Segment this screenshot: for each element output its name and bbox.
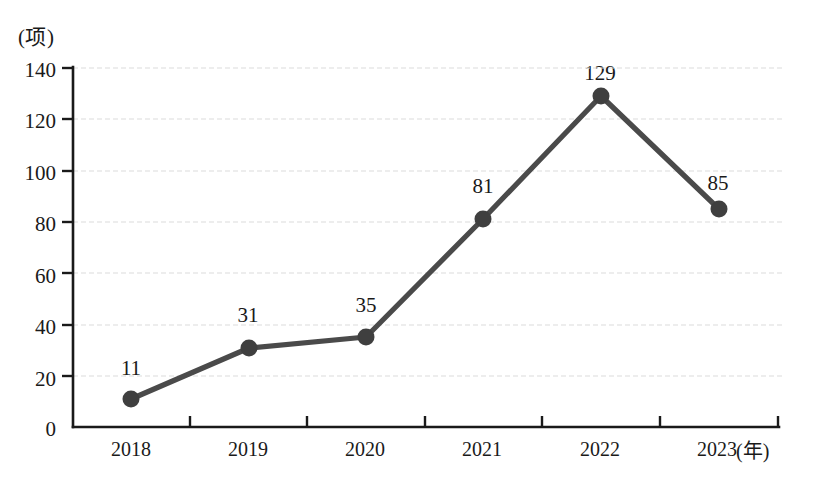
gridlines (73, 68, 783, 376)
x-axis-ticks (190, 416, 778, 427)
series-line (131, 96, 719, 399)
data-point-2021 (475, 211, 492, 228)
line-chart: (项) (年) 140 120 100 80 60 40 20 0 2018 2… (0, 0, 817, 503)
data-point-2020 (358, 329, 375, 346)
y-axis-ticks (62, 68, 73, 376)
axis-lines (73, 67, 779, 427)
data-point-2019 (241, 340, 258, 357)
data-point-2022 (593, 88, 610, 105)
data-point-2023 (711, 201, 728, 218)
series-markers (123, 88, 728, 408)
data-point-2018 (123, 391, 140, 408)
plot-area (0, 0, 817, 503)
